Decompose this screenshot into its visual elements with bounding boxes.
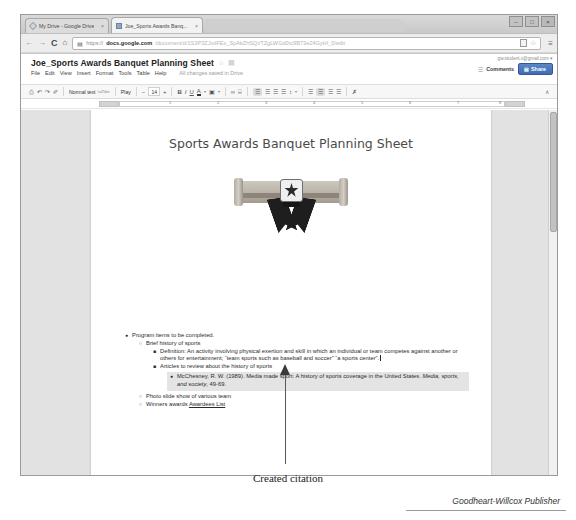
address-bar[interactable]: ▤ https:// docs.google.com /document/d/1… (72, 37, 541, 50)
vertical-scrollbar[interactable] (548, 110, 557, 475)
menu-file[interactable]: File (31, 70, 40, 76)
minimize-button[interactable]: – (509, 16, 523, 27)
page-title[interactable]: Joe_Sports Awards Banquet Planning Sheet (31, 58, 214, 68)
bulleted-list-button[interactable]: ☰ (316, 88, 325, 96)
menu-table[interactable]: Table (136, 70, 149, 76)
document-canvas: Sports Awards Banquet Planning Sheet (21, 110, 557, 475)
toolbar-divider (247, 87, 248, 96)
paragraph-style-select[interactable]: Normal text \u25be (69, 89, 110, 95)
list-item[interactable]: ○ Winners awards Awardees List (139, 401, 469, 409)
bookmark-star-icon[interactable]: ☆ (530, 39, 536, 47)
google-docs-app: Joe_Sports Awards Banquet Planning Sheet… (21, 53, 557, 475)
browser-navbar: ← → C ⌂ ▤ https:// docs.google.com /docu… (21, 33, 557, 52)
chevron-down-icon: \u25be (98, 89, 110, 94)
align-left-button[interactable]: ☰ (253, 88, 262, 96)
text-color-button[interactable]: A (197, 88, 201, 96)
toolbar-divider (136, 87, 137, 96)
extension-icon[interactable] (520, 39, 527, 47)
insert-comment-icon[interactable]: ⌸ (238, 89, 242, 95)
scroll-cap-left (234, 178, 243, 206)
star-icon[interactable]: ☆ (218, 59, 224, 67)
omnibox-actions: ☆ (520, 39, 536, 47)
close-icon[interactable]: × (101, 23, 104, 29)
home-icon[interactable]: ⌂ (63, 39, 68, 47)
tab-label: My Drive - Google Drive (39, 23, 94, 29)
list-item[interactable]: ○ Photo slide show of various team (139, 393, 469, 401)
callout-arrow-head (280, 364, 290, 375)
reload-icon[interactable]: C (51, 39, 58, 48)
window-controls: – □ × (509, 16, 555, 27)
redo-icon[interactable]: ↷ (45, 89, 50, 95)
scroll-cap-right (339, 178, 348, 206)
clear-formatting-button[interactable]: ✗ (352, 89, 357, 95)
align-right-button[interactable]: ☰ (273, 89, 278, 95)
forward-icon[interactable]: → (38, 39, 46, 47)
menu-tools[interactable]: Tools (118, 70, 131, 76)
chevron-down-icon[interactable]: ▾ (295, 89, 297, 94)
diploma-scroll-image[interactable] (236, 167, 346, 249)
winners-awards-label: Winners awards (146, 401, 189, 407)
list-item[interactable]: ■ Articles to review about the history o… (153, 363, 469, 371)
document-ruler[interactable]: 1 2 3 4 5 6 7 8 (21, 99, 557, 109)
citation-author-title: McChesney, R. W. (1989). Media made spor… (177, 373, 422, 379)
list-item[interactable]: ○ Brief history of sports (139, 340, 469, 348)
browser-menu-icon[interactable]: ≡ (546, 39, 553, 48)
font-size-increase[interactable]: + (163, 89, 167, 95)
awardees-list-link[interactable]: Awardees List (189, 401, 225, 407)
list-item[interactable]: ■ Definition: An activity involving phys… (153, 348, 469, 364)
bullet-icon: ● (170, 373, 173, 381)
folder-icon[interactable]: ▤ (228, 59, 235, 67)
maximize-button[interactable]: □ (525, 16, 539, 27)
font-size-decrease[interactable]: − (142, 89, 146, 95)
tab-label: Joe_Sports Awards Banq... (125, 23, 187, 29)
comment-history-icon[interactable]: ☰ (478, 66, 483, 73)
citation-list-item[interactable]: ● McChesney, R. W. (1989). Media made sp… (167, 372, 469, 391)
ruler-track[interactable] (119, 101, 505, 107)
ruler-number: 5 (361, 100, 363, 105)
bold-button[interactable]: B (177, 89, 181, 95)
menu-help[interactable]: Help (155, 70, 167, 76)
chevron-down-icon[interactable]: ▾ (218, 89, 220, 94)
font-family-select[interactable]: Play (121, 89, 131, 95)
print-icon[interactable]: ⎙ (29, 89, 34, 95)
docs-header: Joe_Sports Awards Banquet Planning Sheet… (21, 54, 557, 84)
highlight-color-button[interactable]: ▣ (209, 89, 215, 95)
save-status: All changes saved in Drive (179, 70, 243, 76)
back-icon[interactable]: ← (25, 39, 33, 47)
comments-button[interactable]: Comments (486, 66, 514, 72)
document-page[interactable]: Sports Awards Banquet Planning Sheet (91, 110, 491, 475)
ruler-left-margin[interactable] (99, 101, 119, 107)
indent-less-button[interactable]: ☰ (328, 89, 333, 95)
ruler-right-margin[interactable] (505, 101, 525, 107)
menu-view[interactable]: View (60, 70, 72, 76)
paint-format-icon[interactable]: ✐ (53, 89, 58, 95)
credit-divider (406, 510, 566, 511)
indent-more-button[interactable]: ☰ (336, 89, 341, 95)
font-size-input[interactable]: 14 (148, 87, 160, 96)
share-button[interactable]: ▤ Share (518, 63, 553, 75)
align-justify-button[interactable]: ☰ (281, 89, 286, 95)
undo-icon[interactable]: ↶ (37, 89, 42, 95)
numbered-list-button[interactable]: ☰ (308, 89, 313, 95)
italic-button[interactable]: I (185, 89, 187, 95)
browser-tab-sports-doc[interactable]: Joe_Sports Awards Banq... × (111, 17, 203, 33)
citation-text: McChesney, R. W. (1989). Media made spor… (177, 373, 466, 389)
menu-insert[interactable]: Insert (77, 70, 91, 76)
account-email[interactable]: gw.student.x@gmail.com ▾ (478, 56, 553, 61)
close-icon[interactable]: × (195, 23, 198, 29)
align-center-button[interactable]: ☰ (265, 89, 270, 95)
chevron-down-icon[interactable]: ▾ (204, 89, 206, 94)
browser-tab-my-drive[interactable]: My Drive - Google Drive × (25, 18, 109, 33)
menu-format[interactable]: Format (96, 70, 114, 76)
list-item-text: Program items to be completed. (132, 332, 469, 340)
list-item[interactable]: ● Program items to be completed. (125, 332, 469, 340)
underline-button[interactable]: U (189, 89, 193, 95)
close-window-button[interactable]: × (541, 16, 555, 27)
line-spacing-button[interactable]: ↕ (289, 89, 292, 95)
collapse-toolbar-icon[interactable]: ∧ (545, 88, 549, 95)
tabstrip-empty-area (205, 19, 405, 32)
toolbar-divider (225, 87, 226, 96)
scrollbar-thumb[interactable] (550, 112, 557, 232)
menu-edit[interactable]: Edit (45, 70, 55, 76)
insert-link-icon[interactable]: ∞ (231, 89, 235, 95)
